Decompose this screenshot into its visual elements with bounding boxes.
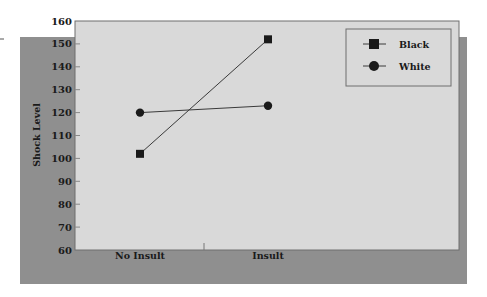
legend-label: Black <box>399 39 430 50</box>
y-tick-label: 150 <box>51 38 72 49</box>
y-tick-label: 80 <box>58 199 72 210</box>
y-tick-label: 60 <box>58 245 72 256</box>
line-chart: 60708090100110120130140150160 No InsultI… <box>0 0 487 297</box>
y-tick-label: 90 <box>58 176 72 187</box>
black-square-marker <box>264 35 272 43</box>
y-tick-label: 120 <box>51 107 72 118</box>
legend-square-icon <box>369 39 379 49</box>
y-tick-label: 160 <box>51 16 72 27</box>
y-tick-label: 110 <box>51 130 72 141</box>
legend-circle-icon <box>369 61 379 71</box>
y-axis-title: Shock Level <box>31 103 42 167</box>
black-square-marker <box>136 150 144 158</box>
legend-label: White <box>398 61 431 72</box>
white-circle-marker <box>136 108 144 116</box>
y-tick-label: 140 <box>51 61 72 72</box>
x-category-label: Insult <box>252 250 284 261</box>
white-circle-marker <box>264 102 272 110</box>
y-tick-label: 70 <box>58 222 72 233</box>
x-category-label: No Insult <box>115 250 166 261</box>
y-tick-label: 130 <box>51 84 72 95</box>
legend: BlackWhite <box>346 29 451 86</box>
y-tick-label: 100 <box>51 153 72 164</box>
